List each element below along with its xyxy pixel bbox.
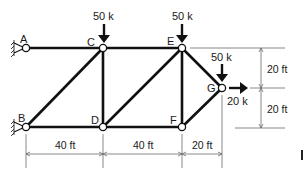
joint-D xyxy=(99,123,106,130)
label-G: G xyxy=(207,82,216,94)
label-A: A xyxy=(20,33,28,45)
load-G-right: 20 k xyxy=(227,82,248,107)
dim-FG-label: 20 ft xyxy=(192,139,213,151)
joint-E xyxy=(178,44,185,51)
dim-GF-label: 20 ft xyxy=(267,103,288,115)
label-D: D xyxy=(91,114,99,126)
load-G-down-label: 50 k xyxy=(211,51,232,63)
joint-C xyxy=(99,44,106,51)
load-G-down: 50 k xyxy=(211,51,232,82)
joints xyxy=(22,44,225,130)
load-E: 50 k xyxy=(172,10,193,43)
member-FG xyxy=(182,88,222,127)
label-E: E xyxy=(167,35,174,47)
dim-DF-label: 40 ft xyxy=(133,139,154,151)
joint-A xyxy=(22,44,29,51)
load-G-right-label: 20 k xyxy=(227,95,248,107)
load-C: 50 k xyxy=(93,10,114,43)
joint-F xyxy=(178,123,185,130)
truss-members xyxy=(26,48,222,127)
dim-EG-label: 20 ft xyxy=(267,63,288,75)
joint-G xyxy=(218,84,225,91)
load-E-label: 50 k xyxy=(172,10,193,22)
label-F: F xyxy=(170,114,177,126)
label-C: C xyxy=(87,36,95,48)
joint-B xyxy=(22,123,29,130)
label-B: B xyxy=(18,112,25,124)
load-C-label: 50 k xyxy=(93,10,114,22)
dim-BD-label: 40 ft xyxy=(55,139,76,151)
truss-diagram: A B C D E F G 50 k 50 k 50 k 20 k 40 f xyxy=(0,0,306,180)
edge-fragment xyxy=(301,150,303,160)
